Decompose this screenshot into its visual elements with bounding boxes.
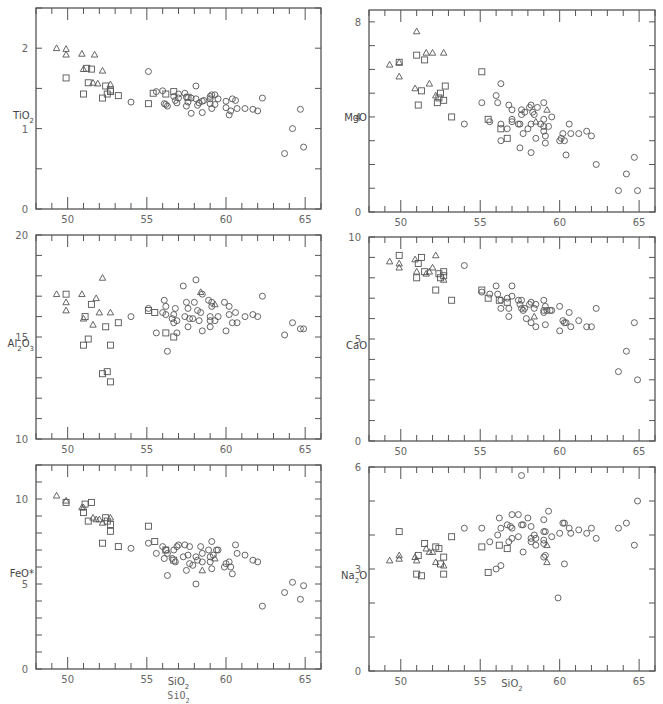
data-point-circle (153, 330, 159, 336)
data-point-circle (509, 525, 515, 531)
data-point-circle (172, 305, 178, 311)
y-axis-label: CaO (346, 340, 367, 351)
data-point-square (145, 523, 151, 529)
data-point-circle (282, 151, 288, 157)
data-point-circle (487, 119, 493, 125)
data-point-circle (493, 283, 499, 289)
data-point-circle (525, 515, 531, 521)
data-point-triangle (53, 291, 59, 297)
data-point-circle (215, 314, 221, 320)
series-square (396, 252, 510, 305)
data-point-circle (199, 110, 205, 116)
data-point-circle (183, 567, 189, 573)
data-point-circle (519, 473, 525, 479)
data-point-circle (615, 525, 621, 531)
series-circle (461, 81, 640, 194)
y-axis-label-part: CaO (346, 340, 367, 351)
data-point-circle (242, 552, 248, 558)
x-axis-label: SiO2 (501, 678, 522, 693)
series-circle (128, 69, 307, 157)
data-point-circle (533, 135, 539, 141)
plot-frame (369, 467, 655, 671)
data-point-circle (301, 583, 307, 589)
data-point-circle (496, 515, 502, 521)
data-point-circle (183, 103, 189, 109)
series-square (63, 291, 177, 385)
data-point-triangle (412, 85, 418, 91)
panel-na2o: 50556065036Na2OSiO2 (341, 462, 655, 693)
x-axis-label-part: SiO (501, 678, 518, 689)
data-point-square (81, 342, 87, 348)
data-point-circle (199, 550, 205, 556)
data-point-circle (495, 532, 501, 538)
data-point-circle (209, 539, 215, 545)
plot-frame (36, 8, 321, 209)
data-point-square (152, 539, 158, 545)
data-point-triangle (96, 309, 102, 315)
x-axis-label: SiO2 (168, 676, 189, 691)
x-tick-label: 50 (394, 217, 407, 228)
y-tick-label: 20 (15, 230, 28, 241)
data-point-square (396, 252, 402, 258)
data-point-triangle (429, 49, 435, 55)
data-point-square (449, 534, 455, 540)
data-point-circle (615, 188, 621, 194)
data-point-square (418, 254, 424, 260)
data-point-triangle (386, 61, 392, 67)
data-point-circle (234, 106, 240, 112)
panel-feo: 505560650510FeO*SiO2SiO2 (10, 465, 321, 704)
data-point-triangle (386, 557, 392, 563)
data-point-circle (593, 305, 599, 311)
y-axis-label-part: Al (8, 338, 18, 349)
plot-frame (36, 465, 321, 669)
data-point-square (152, 310, 158, 316)
data-point-circle (541, 554, 547, 560)
y-tick-label: 0 (22, 204, 28, 215)
data-point-circle (584, 530, 590, 536)
data-point-circle (461, 525, 467, 531)
data-point-circle (549, 534, 555, 540)
data-point-circle (229, 571, 235, 577)
data-point-square (449, 114, 455, 120)
y-axis-label-part: O (22, 338, 30, 349)
y-axis-label-part: MgO (344, 112, 367, 123)
data-point-circle (563, 152, 569, 158)
data-point-circle (623, 348, 629, 354)
data-point-square (433, 287, 439, 293)
data-point-circle (183, 299, 189, 305)
series-circle (461, 473, 640, 601)
data-point-triangle (99, 275, 105, 281)
data-point-triangle (429, 264, 435, 270)
data-point-triangle (433, 559, 439, 565)
data-point-circle (226, 112, 232, 118)
data-point-circle (533, 542, 539, 548)
y-tick-label: 0 (355, 666, 361, 677)
data-point-square (496, 542, 502, 548)
y-tick-label: 8 (355, 17, 361, 28)
data-point-circle (180, 283, 186, 289)
x-tick-label: 55 (474, 217, 487, 228)
data-point-square (107, 528, 113, 534)
data-point-square (100, 540, 106, 546)
data-point-circle (509, 107, 515, 113)
data-point-triangle (63, 299, 69, 305)
data-point-circle (498, 305, 504, 311)
plot-frame (36, 235, 321, 439)
panel-mgo: 50556065048MgO (344, 10, 655, 228)
y-axis-label-part: Na (341, 570, 355, 581)
data-point-circle (282, 332, 288, 338)
data-point-circle (487, 539, 493, 545)
data-point-circle (188, 110, 194, 116)
x-axis-label-part: 2 (185, 683, 189, 691)
data-point-circle (533, 324, 539, 330)
data-point-circle (297, 106, 303, 112)
data-point-triangle (413, 268, 419, 274)
data-point-circle (542, 552, 548, 558)
data-point-square (396, 529, 402, 535)
data-point-triangle (80, 315, 86, 321)
data-point-square (441, 554, 447, 560)
data-point-circle (233, 310, 239, 316)
data-point-circle (635, 498, 641, 504)
data-point-triangle (63, 497, 69, 503)
y-tick-label: 0 (355, 436, 361, 447)
